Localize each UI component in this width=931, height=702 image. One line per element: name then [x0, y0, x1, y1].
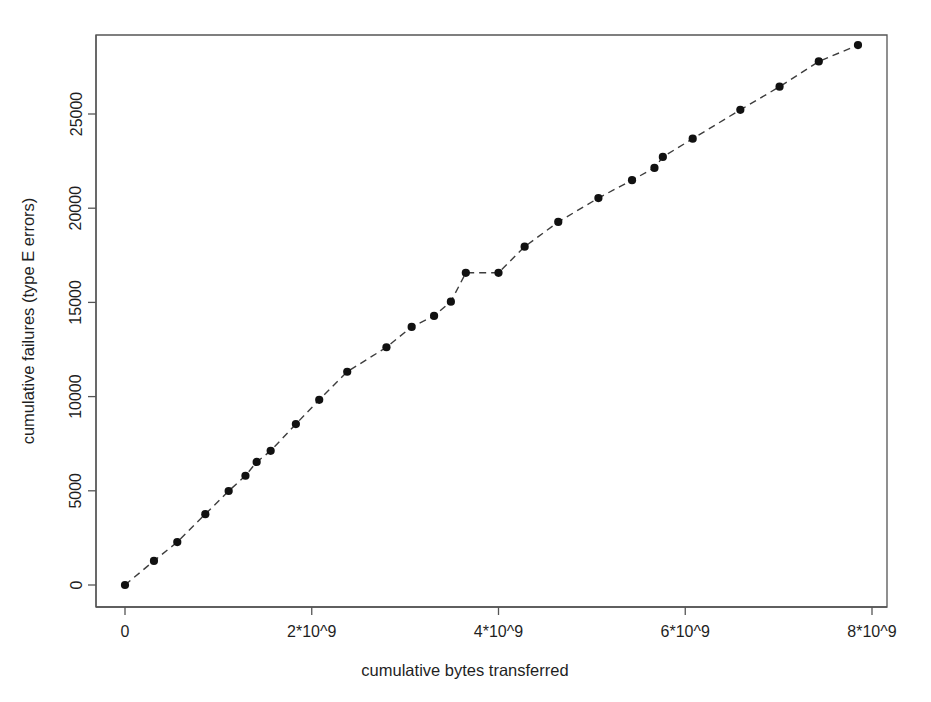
data-series — [121, 41, 862, 589]
y-tick-label: 20000 — [68, 186, 85, 231]
data-point — [121, 581, 129, 589]
data-point — [628, 176, 636, 184]
x-axis-ticks: 02*10^94*10^96*10^98*10^9 — [121, 607, 897, 640]
data-point — [594, 194, 602, 202]
data-point — [430, 312, 438, 320]
data-point — [253, 458, 261, 466]
data-point — [225, 487, 233, 495]
data-point — [554, 218, 562, 226]
x-tick-label: 4*10^9 — [474, 623, 523, 640]
data-point — [408, 323, 416, 331]
data-point — [292, 420, 300, 428]
chart-figure: 02*10^94*10^96*10^98*10^9 05000100001500… — [0, 0, 931, 702]
y-tick-label: 10000 — [68, 374, 85, 419]
data-point — [173, 538, 181, 546]
data-point — [736, 106, 744, 114]
data-point — [650, 164, 658, 172]
data-point — [521, 243, 529, 251]
x-tick-label: 0 — [121, 623, 130, 640]
data-point — [689, 135, 697, 143]
data-point — [462, 269, 470, 277]
y-tick-label: 5000 — [68, 473, 85, 509]
y-axis-ticks: 0500010000150002000025000 — [68, 92, 97, 590]
data-point — [201, 510, 209, 518]
y-tick-label: 0 — [68, 580, 85, 589]
data-point — [150, 557, 158, 565]
y-tick-label: 15000 — [68, 280, 85, 325]
y-axis-title: cumulative failures (type E errors) — [19, 198, 37, 445]
axes — [96, 35, 887, 607]
x-axis-title: cumulative bytes transferred — [361, 661, 568, 679]
y-tick-label: 25000 — [68, 92, 85, 137]
data-point — [815, 57, 823, 65]
data-point — [854, 41, 862, 49]
data-point — [659, 153, 667, 161]
data-point — [494, 269, 502, 277]
x-tick-label: 2*10^9 — [287, 623, 336, 640]
data-point — [343, 368, 351, 376]
data-point — [382, 343, 390, 351]
series-line — [125, 45, 858, 585]
data-point — [267, 447, 275, 455]
x-tick-label: 6*10^9 — [661, 623, 710, 640]
data-point — [775, 83, 783, 91]
data-point — [315, 396, 323, 404]
cumulative-failures-scatter-plot: 02*10^94*10^96*10^98*10^9 05000100001500… — [0, 0, 931, 702]
data-point — [241, 472, 249, 480]
data-point — [447, 298, 455, 306]
x-tick-label: 8*10^9 — [847, 623, 896, 640]
plot-frame — [96, 35, 887, 607]
